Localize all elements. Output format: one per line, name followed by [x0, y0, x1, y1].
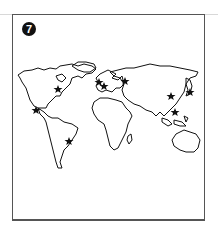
madagascar-outline: [127, 134, 132, 144]
world-map: [0, 0, 218, 233]
star-marker-north-america-east: [54, 85, 63, 93]
southeast-asia-islands: [162, 116, 188, 126]
south-america-outline: [38, 108, 78, 168]
star-marker-east-asia-south: [171, 108, 180, 116]
africa-outline: [92, 98, 132, 150]
australia-outline: [172, 130, 200, 152]
asia-outline: [110, 64, 198, 116]
north-america-outline: [18, 64, 96, 108]
star-marker-western-europe-1: [95, 78, 104, 86]
star-marker-china: [167, 92, 176, 100]
star-marker-eastern-europe: [121, 77, 130, 85]
location-markers: [32, 77, 195, 145]
hudson-bay-outline: [56, 74, 66, 82]
